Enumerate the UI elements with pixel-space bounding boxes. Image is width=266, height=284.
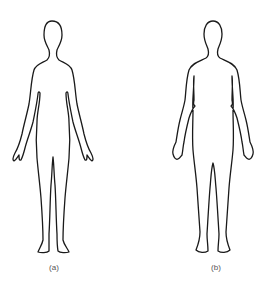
figure-label-b: (b) [201, 263, 231, 272]
figure-label-a: (a) [39, 263, 69, 272]
figures-diagram [0, 0, 266, 284]
body-outline-a [13, 21, 93, 253]
body-outline-b [173, 21, 254, 252]
